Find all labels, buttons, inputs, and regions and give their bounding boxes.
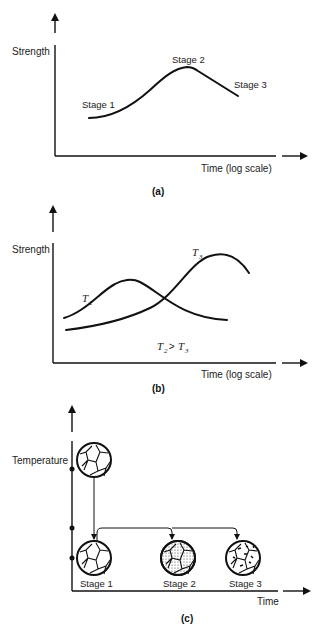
ylabel-c: Temperature bbox=[12, 455, 69, 466]
temperature-marker-low bbox=[70, 556, 75, 561]
aging-arrow-stage-3 bbox=[172, 528, 237, 539]
panel-c: Temperature Time Stage 1 Stage 2 bbox=[12, 407, 309, 624]
svg-text:T: T bbox=[192, 246, 199, 258]
ylabel-a: Strength bbox=[12, 46, 50, 57]
svg-text:T: T bbox=[178, 340, 185, 352]
grain-structure-solution-treated bbox=[77, 443, 111, 477]
stage-3-label: Stage 3 bbox=[229, 578, 262, 589]
temperature-marker-mid bbox=[70, 526, 75, 531]
label-t3: T 3 bbox=[192, 246, 203, 261]
annotation-stage-2: Stage 2 bbox=[172, 54, 205, 65]
svg-text:3: 3 bbox=[198, 253, 203, 261]
grain-structure-stage-1 bbox=[77, 541, 111, 575]
strength-curve-a bbox=[89, 67, 238, 118]
panel-b: Strength Time (log scale) T 2 T 3 T 2 > … bbox=[12, 207, 306, 394]
caption-b: (b) bbox=[152, 383, 165, 394]
relation-t2-gt-t3: T 2 > T 3 bbox=[157, 340, 189, 355]
xlabel-a: Time (log scale) bbox=[201, 163, 272, 174]
figure-canvas: Strength Time (log scale) Stage 1 Stage … bbox=[0, 0, 319, 635]
temperature-marker-high bbox=[70, 467, 75, 472]
curve-t3 bbox=[66, 254, 249, 330]
xlabel-c: Time bbox=[257, 596, 279, 607]
ylabel-b: Strength bbox=[12, 244, 50, 255]
xlabel-b: Time (log scale) bbox=[201, 369, 272, 380]
stage-1-label: Stage 1 bbox=[80, 578, 113, 589]
svg-text:T: T bbox=[157, 340, 164, 352]
caption-a: (a) bbox=[152, 186, 164, 197]
grain-structure-stage-2 bbox=[161, 541, 195, 575]
svg-text:>: > bbox=[166, 341, 177, 352]
stage-2-label: Stage 2 bbox=[163, 578, 196, 589]
panel-a: Strength Time (log scale) Stage 1 Stage … bbox=[12, 15, 306, 197]
aging-arrow-stage-2 bbox=[97, 528, 172, 541]
grain-structure-stage-3 bbox=[226, 541, 260, 575]
annotation-stage-1: Stage 1 bbox=[82, 99, 115, 110]
annotation-stage-3: Stage 3 bbox=[234, 79, 267, 90]
svg-text:2: 2 bbox=[89, 299, 93, 307]
caption-c: (c) bbox=[181, 613, 193, 624]
svg-text:T: T bbox=[82, 292, 89, 304]
svg-text:3: 3 bbox=[184, 347, 189, 355]
